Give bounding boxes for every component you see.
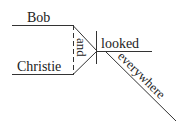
verb-looked: looked (101, 36, 139, 51)
sentence-diagram: Bob Christie and looked everywhere (0, 0, 183, 125)
modifier-everywhere: everywhere (115, 48, 169, 101)
subject-christie: Christie (17, 59, 61, 74)
subject-bob: Bob (27, 10, 50, 25)
modifier-diagonal (105, 51, 176, 121)
conjunction-and: and (74, 38, 89, 57)
